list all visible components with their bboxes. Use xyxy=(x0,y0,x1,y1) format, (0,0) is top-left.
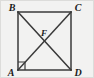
vertex-label-b: B xyxy=(8,2,16,13)
vertex-label-c: C xyxy=(75,2,82,13)
vertex-label-a: A xyxy=(7,67,15,78)
intersection-label-f: F xyxy=(40,28,47,38)
figure-canvas: B C A D F xyxy=(0,0,94,78)
vertex-label-d: D xyxy=(73,67,81,78)
geometry-figure: B C A D F xyxy=(0,0,94,78)
